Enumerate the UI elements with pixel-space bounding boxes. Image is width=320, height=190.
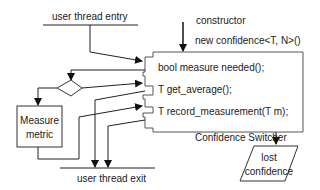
lost-confidence-line1: lost xyxy=(261,152,277,163)
user-thread-exit: user thread exit xyxy=(60,168,155,184)
measure-metric-box: Measure metric xyxy=(17,106,62,147)
entry-label: user thread entry xyxy=(52,11,128,22)
decision-diamond xyxy=(57,80,82,96)
constructor-label: constructor xyxy=(196,15,246,26)
lost-confidence-shape: lost confidence xyxy=(240,146,298,181)
confidence-switcher-diagram: user thread entry constructor new confid… xyxy=(0,0,320,190)
user-thread-entry: user thread entry xyxy=(43,11,138,25)
decision-to-get-average-arrow xyxy=(82,83,142,88)
method-get-average: T get_average(); xyxy=(158,84,232,95)
component-name: Confidence Switcher xyxy=(195,132,287,143)
measure-metric-line1: Measure xyxy=(20,115,59,126)
exit-label: user thread exit xyxy=(77,173,146,184)
get-average-to-exit-arrow xyxy=(95,91,145,167)
lost-confidence-line2: confidence xyxy=(245,166,294,177)
method-record-measurement: T record_measurement(T m); xyxy=(158,106,288,117)
constructor-call: new confidence<T, N>() xyxy=(195,35,301,46)
entry-to-measure-needed-arrow xyxy=(90,25,142,61)
measure-metric-line2: metric xyxy=(26,129,53,140)
method-measure-needed: bool measure needed(); xyxy=(158,62,264,73)
record-to-exit-arrow xyxy=(108,120,145,167)
decision-to-measure-metric-arrow xyxy=(38,88,57,105)
measure-needed-to-decision-arrow xyxy=(71,70,145,80)
